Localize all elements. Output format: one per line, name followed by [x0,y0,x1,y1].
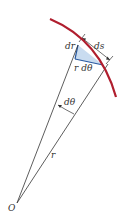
dr-label: dr [65,42,75,51]
r-dtheta-label: r dθ [74,64,92,73]
ds-tick-bottom [106,56,113,64]
r-label: r [51,151,55,160]
dtheta-label: dθ [64,98,75,107]
origin-label: O [8,204,15,213]
polar-arc-diagram [0,0,125,223]
dtheta-arrow [58,105,62,108]
ds-label: ds [94,42,104,51]
